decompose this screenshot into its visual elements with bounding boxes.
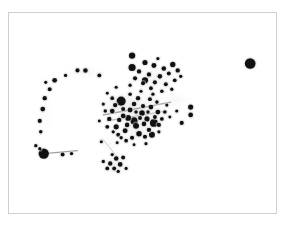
scatter-point <box>128 84 131 87</box>
scatter-point <box>105 125 109 129</box>
scatter-point <box>165 103 168 106</box>
scatter-point <box>141 81 145 85</box>
scatter-point <box>121 107 125 111</box>
scatter-point <box>133 143 136 146</box>
scatter-point <box>163 110 167 114</box>
scatter-point <box>149 86 153 90</box>
scatter-point <box>173 78 177 82</box>
scatter-point <box>136 131 142 137</box>
scatter-point <box>75 68 79 72</box>
scatter-point <box>139 90 142 93</box>
scatter-point <box>119 136 122 139</box>
scatter-point <box>123 128 128 133</box>
scatter-point <box>158 74 163 79</box>
scatter-point <box>157 123 161 127</box>
scatter-point <box>102 103 105 106</box>
scatter-point <box>83 68 88 73</box>
plot-frame <box>8 12 277 214</box>
scatter-point <box>156 57 159 60</box>
scatter-point <box>115 86 118 89</box>
scatter-point <box>148 97 152 101</box>
scatter-point <box>34 144 37 147</box>
scatter-point <box>133 76 137 80</box>
scatter-point <box>110 109 115 114</box>
scatter-point <box>38 119 42 123</box>
scatter-point <box>118 162 123 167</box>
scatter-point <box>147 128 151 132</box>
scatter-point <box>70 152 73 155</box>
scatter-point <box>168 115 171 118</box>
scatter-point <box>138 116 142 120</box>
scatter-point <box>108 161 112 165</box>
scatter-point <box>137 69 141 73</box>
scatter-point <box>52 78 57 83</box>
scatter-point <box>143 135 147 139</box>
scatter-point <box>160 89 164 93</box>
figure-root <box>0 0 289 225</box>
scatter-point <box>176 68 180 72</box>
scatter-point <box>125 167 128 170</box>
scatter-point <box>167 71 171 75</box>
scatter-point <box>156 110 161 115</box>
scatter-point <box>103 109 107 113</box>
scatter-point <box>142 60 147 65</box>
scatter-point <box>155 100 159 104</box>
scatter-point <box>97 73 101 77</box>
scatter-point <box>130 136 134 140</box>
scatter-plot-canvas <box>9 13 276 213</box>
scatter-point <box>245 58 256 69</box>
scatter-point <box>125 123 130 128</box>
scatter-point <box>151 63 156 68</box>
scatter-point <box>179 75 182 78</box>
scatter-point <box>144 142 147 145</box>
scatter-point <box>153 115 157 119</box>
scatter-point <box>129 52 135 58</box>
scatter-point <box>160 117 164 121</box>
scatter-point <box>129 64 136 71</box>
scatter-point <box>106 92 109 95</box>
scatter-point <box>100 140 103 143</box>
scatter-point <box>112 130 115 133</box>
scatter-point <box>105 167 109 171</box>
scatter-point <box>142 122 147 127</box>
scatter-point <box>175 109 178 112</box>
scatter-point <box>98 119 101 122</box>
scatter-point <box>147 72 151 76</box>
scatter-point <box>121 156 125 160</box>
scatter-point <box>116 170 119 173</box>
scatter-point <box>124 139 128 143</box>
scatter-point <box>132 102 137 107</box>
scatter-point <box>39 130 43 134</box>
scatter-point <box>112 166 116 170</box>
scatter-point <box>116 141 119 144</box>
scatter-point <box>141 104 145 108</box>
scatter-point <box>153 80 157 84</box>
scatter-point <box>128 108 133 113</box>
scatter-point <box>162 66 167 71</box>
scatter-point <box>136 96 140 100</box>
scatter-point <box>128 92 132 96</box>
scatter-point <box>117 118 121 122</box>
scatter-point <box>149 105 154 110</box>
scatter-point <box>111 153 114 156</box>
scatter-point <box>188 113 193 118</box>
scatter-point <box>43 96 47 100</box>
scatter-point <box>180 121 184 125</box>
scatter-point <box>107 117 111 121</box>
scatter-point <box>114 156 119 161</box>
scatter-point <box>61 153 65 157</box>
scatter-point <box>188 104 193 109</box>
scatter-point <box>40 107 45 112</box>
scatter-point <box>151 93 154 96</box>
scatter-point <box>113 103 117 107</box>
scatter-point <box>48 87 52 91</box>
scatter-point <box>38 147 41 150</box>
scatter-point <box>64 74 67 77</box>
scatter-point <box>134 110 138 114</box>
scatter-point <box>170 88 173 91</box>
scatter-point <box>170 62 175 67</box>
scatter-point <box>114 124 119 129</box>
scatter-point <box>164 82 168 86</box>
scatter-point <box>146 110 149 113</box>
scatter-point <box>133 123 139 129</box>
